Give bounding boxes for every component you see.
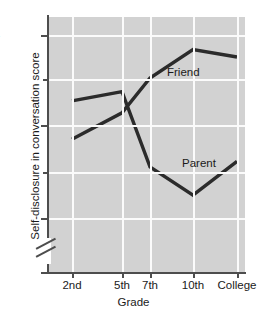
x-axis-line [47, 272, 246, 274]
x-tick-10th [193, 272, 195, 278]
x-tick-label-college: College [218, 279, 257, 291]
y-tick-2p5 [43, 172, 48, 174]
y-tick-2 [41, 218, 48, 220]
series-label-friend: Friend [167, 66, 200, 78]
series-label-parent: Parent [182, 157, 216, 169]
gridline-x-college [237, 17, 239, 272]
x-tick-label-5th: 5th [114, 279, 130, 291]
y-axis-line [47, 15, 49, 273]
gridline-x-2nd [72, 17, 74, 272]
x-tick-5th [122, 272, 124, 278]
series-line-parent [72, 92, 237, 195]
gridline-y-3 [48, 125, 245, 127]
y-axis-title: Self-disclosure in conversation score [29, 31, 41, 261]
series-lines [48, 17, 245, 272]
x-tick-7th [150, 272, 152, 278]
gridline-x-5th [122, 17, 124, 272]
y-tick-4 [41, 35, 48, 37]
plot-area [48, 17, 245, 272]
x-tick-label-10th: 10th [182, 279, 204, 291]
gridline-x-10th [193, 17, 195, 272]
y-tick-3p5 [43, 79, 48, 81]
x-axis-title: Grade [0, 296, 267, 308]
gridline-y-2 [48, 218, 245, 220]
x-tick-label-2nd: 2nd [62, 279, 81, 291]
gridline-y-3p5 [48, 79, 245, 81]
x-tick-label-7th: 7th [142, 279, 158, 291]
x-tick-2nd [72, 272, 74, 278]
x-tick-college [237, 272, 239, 278]
y-tick-1 [41, 272, 48, 274]
gridline-y-2p5 [48, 172, 245, 174]
gridline-y-4 [48, 35, 245, 37]
chart-figure: Friend Parent 4 3 2 1 2nd 5th 7th 10th C… [0, 0, 267, 313]
gridline-x-7th [150, 17, 152, 272]
y-tick-3 [41, 125, 48, 127]
